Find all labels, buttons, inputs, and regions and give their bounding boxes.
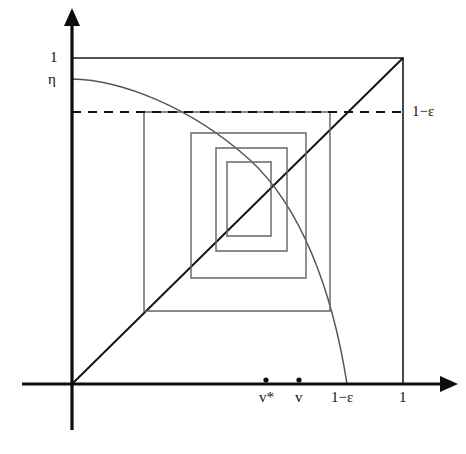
x-axis-arrow-icon (440, 376, 458, 392)
y-label-one: 1 (50, 50, 58, 65)
identity-diagonal-line (72, 58, 403, 384)
x-label-one: 1 (399, 390, 407, 405)
tick-dot-v (296, 377, 301, 382)
y-axis-arrow-icon (64, 8, 80, 26)
cobweb-rect-1 (144, 112, 330, 311)
tick-dot-vstar (263, 377, 268, 382)
cobweb-rect-2 (191, 133, 306, 278)
x-label-threshold: 1−ε (331, 390, 353, 405)
cobweb-figure: 1 η 1−ε v* v 1−ε 1 (0, 0, 466, 454)
x-label-vstar: v* (259, 390, 274, 405)
y-label-eta: η (48, 72, 56, 87)
x-label-v: v (295, 390, 303, 405)
threshold-label-right: 1−ε (412, 104, 434, 119)
plot-canvas (0, 0, 466, 454)
